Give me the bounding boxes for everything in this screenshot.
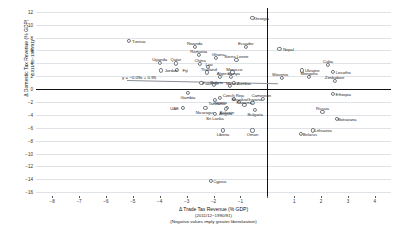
data-point[interactable]: [326, 63, 330, 67]
data-point[interactable]: [234, 57, 238, 61]
data-point[interactable]: [197, 53, 201, 57]
x-tick-mark: [106, 196, 107, 198]
x-tick-label: 1: [293, 199, 296, 204]
data-point-label: Belarus: [303, 132, 317, 137]
data-point-label: Sierra Leone: [224, 53, 248, 58]
x-tick-label: 4: [374, 199, 377, 204]
x-tick-label: −6: [103, 199, 108, 204]
y-axis-zero-line: [267, 8, 268, 196]
data-point-label: Fiji: [183, 67, 188, 72]
x-tick-mark: [52, 196, 53, 198]
x-tick-label: −5: [130, 199, 135, 204]
data-point-label: Liberia: [217, 132, 230, 137]
data-point-label: Russia: [316, 106, 329, 111]
data-point-label: Panama: [237, 100, 253, 105]
data-point-label: Ethiopia: [336, 92, 351, 97]
y-gridline: [36, 192, 391, 193]
data-point-label: Zimbabwe: [325, 75, 344, 80]
data-point-label: Ecuador: [238, 41, 254, 46]
data-point-label: Bulgaria: [247, 111, 262, 116]
data-point-label: Bolivia: [210, 80, 222, 85]
data-point[interactable]: [244, 45, 248, 49]
x-tick-mark: [187, 196, 188, 198]
data-point[interactable]: [174, 61, 178, 65]
x-tick-mark: [375, 196, 376, 198]
data-point-label: Qatar: [171, 57, 182, 62]
data-point-label: Cuba: [323, 58, 333, 63]
y-gridline: [36, 141, 391, 142]
data-point-label: Cyprus: [213, 178, 226, 183]
data-point-label: Slovenia: [272, 72, 288, 77]
regression-equation-annotation: y = −0.09x + 0.95: [122, 75, 156, 80]
data-point-label: Rwanda: [187, 40, 202, 45]
x-tick-label: −8: [50, 199, 55, 204]
y-gridline: [36, 166, 391, 167]
data-point[interactable]: [198, 62, 202, 66]
plot-area: 121086420−2−4−6−8−10−12−14−16−8−7−6−5−4−…: [36, 8, 391, 196]
data-point-label: Tunisia: [132, 38, 145, 43]
data-point-label: UAE: [170, 105, 179, 110]
y-axis-title-sub: (2011/12−1990/91): [29, 0, 35, 133]
data-point[interactable]: [331, 70, 335, 74]
x-tick-label: 2: [320, 199, 323, 204]
y-tick-label: −8: [28, 138, 33, 143]
x-tick-label: −7: [76, 199, 81, 204]
y-tick-label: −14: [25, 177, 33, 182]
data-point-label: Mexico: [226, 80, 239, 85]
y-gridline: [36, 25, 391, 26]
data-point-label: China: [195, 58, 206, 63]
data-point-label: Lithuania: [315, 128, 332, 133]
data-point-label: Botswana: [338, 116, 356, 121]
x-tick-label: −3: [184, 199, 189, 204]
data-point-label: Romania: [190, 49, 207, 54]
y-gridline: [36, 63, 391, 64]
data-point-label: Kenya: [228, 71, 240, 76]
data-point-label: Gambia: [181, 94, 196, 99]
data-point[interactable]: [180, 106, 184, 110]
x-tick-label: 3: [347, 199, 350, 204]
y-gridline: [36, 12, 391, 13]
x-tick-mark: [214, 196, 215, 198]
data-point-label: Tanzania: [208, 101, 225, 106]
y-gridline: [36, 128, 391, 129]
data-point[interactable]: [159, 68, 163, 72]
data-point-label: Thailand: [201, 66, 217, 71]
data-point-label: Lesotho: [336, 69, 351, 74]
data-point-label: Mongolia: [300, 71, 317, 76]
x-axis-title: Δ Trade Tax Revenue (% GDP) (2011/12−199…: [36, 206, 391, 225]
data-point-label: Sri Lanka: [206, 116, 224, 121]
x-tick-label: −2: [211, 199, 216, 204]
data-point-label: Oman: [247, 132, 259, 137]
y-gridline: [36, 38, 391, 39]
scatter-chart: 121086420−2−4−6−8−10−12−14−16−8−7−6−5−4−…: [0, 0, 411, 245]
x-tick-mark: [133, 196, 134, 198]
x-tick-label: −1: [238, 199, 243, 204]
data-point-label: Nepal: [283, 46, 294, 51]
y-tick-label: −10: [25, 151, 33, 156]
x-tick-label: −4: [157, 199, 162, 204]
data-point-label: Uganda: [152, 56, 167, 61]
x-tick-mark: [321, 196, 322, 198]
data-point-label: Jordan: [165, 68, 178, 73]
data-point-label: Georgia: [254, 16, 269, 21]
x-tick-mark: [79, 196, 80, 198]
x-tick-mark: [348, 196, 349, 198]
y-tick-label: −12: [25, 164, 33, 169]
x-tick-mark: [267, 196, 268, 198]
x-axis-zero-line: [36, 89, 391, 90]
y-gridline: [36, 154, 391, 155]
x-tick-mark: [240, 196, 241, 198]
x-axis-title-sub2: (Negative values imply greater liberaliz…: [36, 219, 391, 225]
x-tick-mark: [160, 196, 161, 198]
x-tick-mark: [294, 196, 295, 198]
y-axis-title: Δ Domestic Tax Revenue (% GDP) (2011/12−…: [23, 0, 35, 133]
x-axis-title-main: Δ Trade Tax Revenue (% GDP): [36, 206, 391, 213]
data-point[interactable]: [127, 39, 131, 43]
data-point-label: Ghana: [212, 52, 225, 57]
y-tick-label: −16: [25, 190, 33, 195]
